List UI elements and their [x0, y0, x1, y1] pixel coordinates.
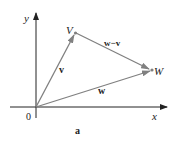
vectors	[36, 33, 150, 107]
vector-diagram: y x 0 V W v w w−v a	[0, 0, 178, 142]
vector-w-minus-v-label: w−v	[104, 38, 121, 48]
vector-w-label: w	[98, 85, 106, 96]
origin-label: 0	[26, 111, 31, 122]
vector-w-arrow	[36, 71, 150, 107]
figure-caption: a	[75, 125, 80, 136]
vector-v-label: v	[59, 64, 64, 75]
point-V-label: V	[66, 24, 74, 36]
y-axis-label: y	[23, 12, 29, 24]
axes	[10, 13, 167, 118]
point-W-label: W	[154, 65, 164, 77]
x-axis-label: x	[151, 110, 157, 122]
point-V-dot	[74, 31, 77, 34]
